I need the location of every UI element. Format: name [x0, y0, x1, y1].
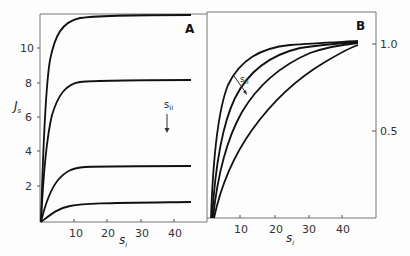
- panel-a: 2 4 6 8 10 10 20 30 40 Js si A sii: [12, 14, 207, 249]
- ytick-label: 8: [25, 77, 32, 90]
- xtick-label: 10: [69, 227, 83, 240]
- curve-b-3: [213, 43, 358, 218]
- ytick-label: 10: [20, 42, 34, 55]
- panel-a-curves: [41, 15, 191, 222]
- sii-annotation-a: sii: [164, 99, 173, 133]
- xtick-label: 20: [269, 223, 283, 236]
- panel-a-label: A: [185, 22, 195, 36]
- xtick-label: 20: [101, 227, 115, 240]
- curve-a-3: [41, 166, 191, 222]
- xtick-label: 10: [234, 223, 248, 236]
- ytick-label: 6: [25, 111, 32, 124]
- svg-text:sii: sii: [164, 99, 173, 112]
- ytick-label: 0.5: [380, 125, 398, 138]
- panel-a-y-ticks: 2 4 6 8 10: [20, 42, 40, 193]
- sii-annotation-b: sii: [234, 74, 249, 95]
- curve-a-4: [41, 202, 191, 222]
- curve-a-1: [41, 15, 191, 222]
- ytick-label: 2: [25, 180, 32, 193]
- panel-b: 1.0 0.5 10 20 30 40 si B sii: [207, 12, 398, 247]
- y-axis-label-a: Js: [12, 99, 22, 115]
- xtick-label: 30: [302, 223, 316, 236]
- svg-text:sii: sii: [240, 74, 249, 86]
- x-axis-label-b: si: [286, 231, 294, 247]
- arrow-icon: [243, 90, 247, 95]
- figure: 2 4 6 8 10 10 20 30 40 Js si A sii: [0, 0, 410, 256]
- panel-b-label: B: [356, 19, 365, 33]
- xtick-label: 30: [135, 227, 149, 240]
- arrow-down-icon: [165, 128, 170, 133]
- ytick-label: 4: [25, 145, 32, 158]
- xtick-label: 40: [168, 227, 182, 240]
- x-axis-label-a: si: [119, 233, 127, 249]
- ytick-label: 1.0: [380, 38, 398, 51]
- xtick-label: 40: [336, 223, 350, 236]
- panel-b-curves: [211, 41, 358, 218]
